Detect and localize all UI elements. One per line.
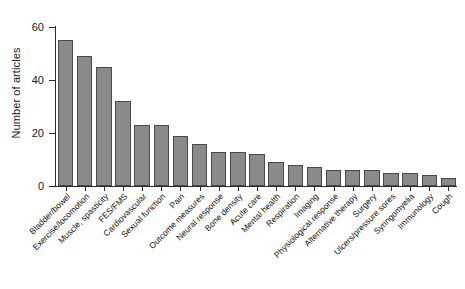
bar [173,136,188,186]
x-tick-mark [372,187,373,191]
x-axis-label: FES/FMS [0,192,129,289]
bar [96,67,111,186]
y-tick-label: 40 [0,75,44,86]
x-axis-label: Acute care [45,192,263,289]
x-tick-mark [314,187,315,191]
x-axis-label: Immunology [217,192,435,289]
x-axis-label: Outcome measures [0,192,206,289]
x-tick-mark [276,187,277,191]
x-axis-label: Muscle, spasticity [0,192,110,289]
x-axis-label: Cardiovascular [0,192,149,289]
x-axis-label: Mental health [64,192,282,289]
bar [288,165,303,186]
x-axis-label: Alternative therapy [141,192,359,289]
bar [441,178,456,186]
y-tick-mark [49,133,55,134]
x-axis-label: Cough [236,192,454,289]
bar [268,162,283,186]
x-tick-mark [391,187,392,191]
x-tick-mark [180,187,181,191]
bar [307,167,322,186]
x-axis-label: Pain [0,192,187,289]
bar-chart: Number of articles 0204060 Bladder/bowel… [0,0,465,289]
x-tick-mark [353,187,354,191]
bar [422,175,437,186]
x-axis-label: Bladder/bowel [0,192,72,289]
x-tick-mark [104,187,105,191]
bar [211,152,226,186]
bar [154,125,169,186]
x-tick-mark [219,187,220,191]
x-axis-label: Imaging [102,192,320,289]
bar [192,144,207,186]
x-axis-label: Physiological response [121,192,339,289]
bar [230,152,245,186]
x-tick-mark [429,187,430,191]
x-tick-mark [161,187,162,191]
bar [364,170,379,186]
y-tick-mark [49,186,55,187]
x-axis-label: Ulcers/pressure sores [179,192,397,289]
x-axis-label: Surgery [160,192,378,289]
bar [249,154,264,186]
x-tick-mark [238,187,239,191]
x-axis-line [55,186,457,187]
x-axis-label: Respiration [83,192,301,289]
bar [134,125,149,186]
bar [402,173,417,186]
bar [345,170,360,186]
bar [115,101,130,186]
x-tick-mark [85,187,86,191]
x-tick-mark [410,187,411,191]
x-axis-label: Neural response [7,192,225,289]
x-tick-mark [448,187,449,191]
x-tick-mark [295,187,296,191]
y-tick-label: 20 [0,128,44,139]
x-tick-mark [334,187,335,191]
y-tick-mark [49,27,55,28]
bar [58,40,73,186]
x-tick-mark [142,187,143,191]
bars-layer [56,27,458,186]
y-tick-label: 60 [0,22,44,33]
y-tick-label: 0 [0,181,44,192]
x-tick-mark [66,187,67,191]
bar [383,173,398,186]
y-tick-mark [49,80,55,81]
x-axis-label: Exercise/locomotion [0,192,91,289]
x-tick-mark [257,187,258,191]
x-tick-mark [200,187,201,191]
bar [326,170,341,186]
x-axis-label: Bone density [26,192,244,289]
x-axis-label: Syringomyelia [198,192,416,289]
x-tick-mark [123,187,124,191]
y-axis-title-text: Number of articles [10,47,22,138]
x-axis-label: Sexual function [0,192,168,289]
bar [77,56,92,186]
